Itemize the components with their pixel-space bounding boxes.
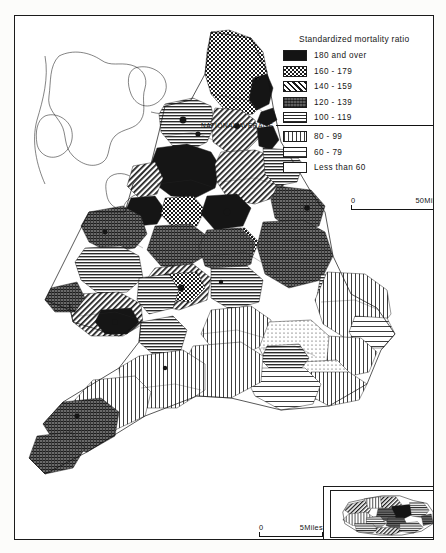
legend-swatch-140-159 <box>283 81 307 92</box>
legend-swatch-180-and-over <box>283 50 307 61</box>
map-figure: Standardized mortality ratio 180 and ove… <box>0 0 446 553</box>
legend-item-180-and-over: 180 and over <box>283 49 434 62</box>
legend-label-180-and-over: 180 and over <box>314 51 367 60</box>
scale-bar-main-labels: 0 50Miles <box>351 196 434 205</box>
scale-bar-inset: 0 5Miles <box>259 523 323 537</box>
legend-label-160-179: 160 - 179 <box>314 67 352 76</box>
legend-label-140-159: 140 - 159 <box>314 82 352 91</box>
legend-title: Standardized mortality ratio <box>299 34 434 44</box>
legend-swatch-less-than-60 <box>283 162 307 173</box>
legend-swatch-60-79 <box>283 147 307 158</box>
legend-item-80-99: 80 - 99 <box>283 130 434 143</box>
map-frame: Standardized mortality ratio 180 and ove… <box>14 15 434 540</box>
scale-bar-main: 0 50Miles <box>351 196 434 210</box>
inset-map-panel: Metropolitan Boroughs <box>323 486 434 540</box>
national-average-line <box>276 125 434 126</box>
national-average-label: NATIONAL AVERAGE <box>201 122 273 129</box>
legend-item-160-179: 160 - 179 <box>283 65 434 78</box>
legend-label-80-99: 80 - 99 <box>314 132 342 141</box>
legend-swatch-80-99 <box>283 131 307 142</box>
legend-item-140-159: 140 - 159 <box>283 80 434 93</box>
inset-map-canvas <box>330 490 434 538</box>
scale-bar-inset-zero: 0 <box>259 523 263 532</box>
legend-swatch-120-139 <box>283 97 307 108</box>
national-average-marker: NATIONAL AVERAGE <box>201 120 434 130</box>
scale-bar-main-bar <box>351 205 434 210</box>
scale-bar-main-zero: 0 <box>351 196 355 205</box>
legend-label-less-than-60: Less than 60 <box>314 163 366 172</box>
legend-swatch-160-179 <box>283 66 307 77</box>
inset-map-svg <box>331 491 434 537</box>
legend-item-less-than-60: Less than 60 <box>283 161 434 174</box>
legend-label-120-139: 120 - 139 <box>314 98 352 107</box>
legend-label-60-79: 60 - 79 <box>314 148 342 157</box>
scale-bar-inset-max: 5Miles <box>300 523 323 532</box>
legend-item-60-79: 60 - 79 <box>283 146 434 159</box>
map-legend: Standardized mortality ratio 180 and ove… <box>283 34 434 177</box>
scale-bar-inset-bar <box>259 532 323 537</box>
legend-item-120-139: 120 - 139 <box>283 96 434 109</box>
scale-bar-main-max: 50Miles <box>415 196 434 205</box>
scale-bar-inset-labels: 0 5Miles <box>259 523 323 532</box>
